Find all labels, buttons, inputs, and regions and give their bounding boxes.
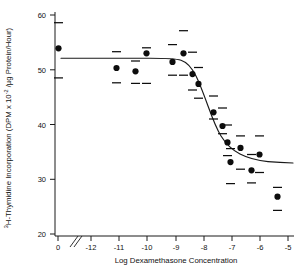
y-tick-label: 60 [38,11,46,20]
data-points [55,45,280,200]
x-axis-title: Log Dexamethasone Concentration [115,256,238,265]
x-tick-label: -12 [86,243,97,252]
data-point [169,59,175,65]
y-tick-label: 20 [38,230,46,239]
data-point [55,45,61,51]
chart-container: 60 50 40 30 20 0 -12 -11 -10 -9 -8 -7 - [0,0,298,267]
data-point [113,65,119,71]
data-point [180,50,186,56]
fit-curve [61,58,293,163]
dose-response-plot: 60 50 40 30 20 0 -12 -11 -10 -9 -8 -7 - [0,0,298,267]
data-point [224,139,230,145]
data-point [227,159,233,165]
data-point [195,81,201,87]
data-point [237,145,243,151]
data-point [248,167,254,173]
data-point [274,194,280,200]
y-tick-label: 30 [38,175,46,184]
x-tick-label: -9 [173,243,180,252]
x-tick-label: -8 [201,243,208,252]
x-tick-label: -6 [257,243,264,252]
data-point [132,68,138,74]
data-point [256,151,262,157]
y-axis-ticks [50,15,55,234]
y-axis-title-prefix: H-Thymidine Incorporation (DPM x 10 [4,94,13,226]
y-tick-label: 40 [38,121,46,130]
data-point [210,109,216,115]
y-axis-title-suffix: /µg Protein/Hour) [4,27,13,89]
x-tick-label: -11 [114,243,124,252]
x-tick-label: 0 [56,243,60,252]
data-point [219,123,225,129]
error-bar-caps [54,23,282,211]
x-tick-label: -7 [229,243,236,252]
x-axis-break-icon [70,236,82,247]
x-axis-ticks [58,236,288,241]
x-tick-label: -10 [142,243,153,252]
x-axis-tick-labels: 0 -12 -11 -10 -9 -8 -7 -6 -5 [56,243,291,252]
data-point [143,50,149,56]
y-axis-tick-labels: 60 50 40 30 20 [38,11,46,239]
x-tick-label: -5 [285,243,292,252]
data-point [189,71,195,77]
y-tick-label: 50 [38,66,46,75]
y-axis-title: 3H-Thymidine Incorporation (DPM x 10-2 /… [3,27,13,228]
